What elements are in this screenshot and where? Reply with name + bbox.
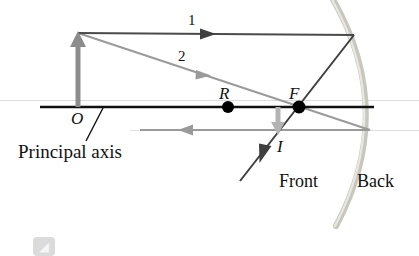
- ray-diagram-figure: 1 2 R F O I Principal axis Front Back ◢: [0, 0, 419, 256]
- principal-axis-leader-line: [86, 108, 103, 141]
- ray1-incident-arrowhead: [200, 29, 216, 40]
- center-of-curvature-label: R: [219, 85, 229, 102]
- corner-badge-icon: ◢: [33, 237, 55, 256]
- image-label: I: [277, 138, 283, 155]
- ray1-reflected-arrowhead: [259, 144, 272, 164]
- ray2-reflected-arrowhead: [178, 125, 193, 136]
- ray2-incident: [78, 33, 370, 130]
- ray2-label: 2: [178, 49, 186, 64]
- diagram-canvas: [0, 0, 419, 256]
- object-label: O: [71, 110, 83, 127]
- front-label: Front: [279, 172, 318, 190]
- corner-badge-glyph: ◢: [33, 239, 55, 254]
- image-arrow-head: [271, 122, 285, 135]
- ray1-label: 1: [188, 13, 196, 28]
- ray2-incident-arrowhead: [196, 70, 212, 80]
- focal-point-label: F: [289, 85, 299, 102]
- principal-axis-label: Principal axis: [18, 142, 122, 161]
- back-label: Back: [357, 172, 394, 190]
